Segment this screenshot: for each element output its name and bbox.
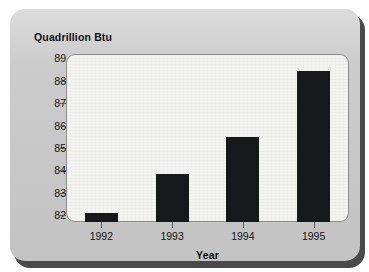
x-axis-title: Year: [66, 249, 349, 261]
x-tick-mark: [243, 222, 244, 228]
bar-1995: [297, 71, 330, 222]
x-tick-mark: [314, 222, 315, 228]
y-axis-title: Quadrillion Btu: [34, 31, 112, 43]
y-tick-mark: [59, 126, 66, 127]
y-tick-mark: [59, 148, 66, 149]
chart-figure: Quadrillion Btu Year 8988878685848382199…: [0, 0, 369, 272]
x-tick-label: 1992: [90, 230, 113, 242]
x-tick-label: 1994: [231, 230, 254, 242]
y-tick-mark: [59, 170, 66, 171]
x-tick-mark: [101, 222, 102, 228]
y-tick-mark: [59, 103, 66, 104]
bar-1993: [156, 174, 189, 222]
x-tick-mark: [172, 222, 173, 228]
y-tick-mark: [59, 193, 66, 194]
x-tick-label: 1993: [160, 230, 183, 242]
bars-layer: [66, 54, 349, 222]
chart-card: Quadrillion Btu Year 8988878685848382199…: [10, 9, 360, 261]
x-tick-label: 1995: [302, 230, 325, 242]
y-tick-mark: [59, 81, 66, 82]
bar-1992: [85, 213, 118, 222]
y-tick-mark: [59, 215, 66, 216]
y-tick-mark: [59, 58, 66, 59]
bar-1994: [226, 137, 259, 222]
